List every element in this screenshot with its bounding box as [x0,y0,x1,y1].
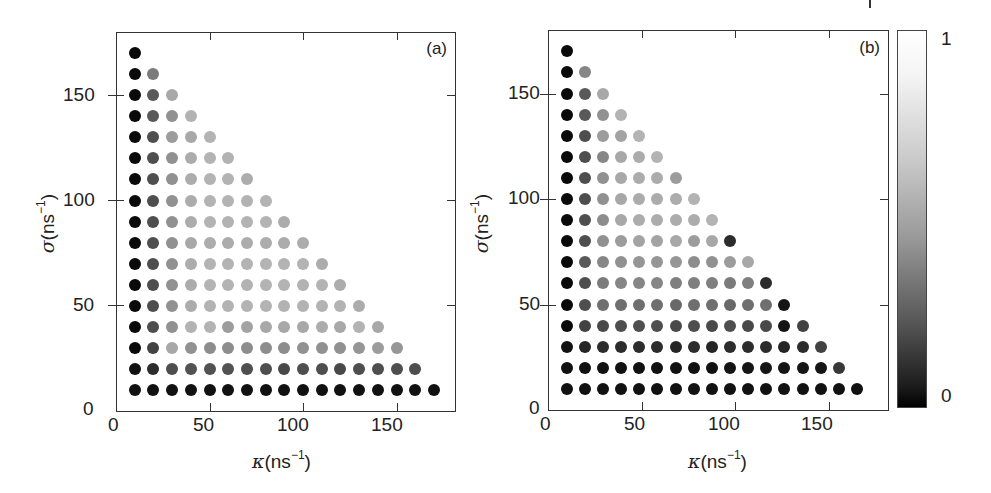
data-point [597,151,609,163]
data-point [760,320,772,332]
data-point [222,195,234,207]
data-point [597,320,609,332]
data-point [428,384,440,396]
data-point [724,341,736,353]
y-axis-title-b: σ(ns−1) [470,194,493,253]
y-axis-exponent: −1 [34,200,48,214]
data-point [615,362,627,374]
y-tick-label: 50 [519,293,540,315]
data-point [222,216,234,228]
data-point [129,342,141,354]
x-tick [303,403,304,411]
y-axis-symbol: σ [36,240,58,253]
data-point [724,362,736,374]
data-point [688,256,700,268]
data-point [561,66,573,78]
y-tick-label: 150 [63,84,95,106]
data-point [204,237,216,249]
data-point [278,258,290,270]
x-tick [642,402,643,410]
data-point [670,362,682,374]
data-point [166,384,178,396]
data-point [742,362,754,374]
data-point [597,341,609,353]
y-axis-unit: (ns [37,214,58,240]
data-point [353,384,365,396]
data-point [615,172,627,184]
data-point [372,321,384,333]
data-point [260,279,272,291]
data-point [742,383,754,395]
data-point [278,321,290,333]
data-point [797,320,809,332]
data-point [222,321,234,333]
x-tick [735,30,736,38]
data-point [561,45,573,57]
data-point [353,342,365,354]
data-point [316,363,328,375]
data-point [241,321,253,333]
data-point [372,363,384,375]
data-point [561,320,573,332]
panel-label-b: (b) [859,38,880,58]
data-point [353,363,365,375]
data-point [260,237,272,249]
x-axis-title-a: κ(ns−1) [252,450,311,473]
y-tick-label: 150 [508,82,540,104]
data-point [633,362,645,374]
data-point [670,256,682,268]
data-point [185,342,197,354]
x-tick [829,402,830,410]
x-tick [210,32,211,40]
colorbar [897,30,927,408]
data-point [615,193,627,205]
data-point [633,151,645,163]
data-point [706,235,718,247]
data-point [579,130,591,142]
data-point [688,214,700,226]
data-point [391,363,403,375]
data-point [742,341,754,353]
data-point [597,362,609,374]
data-point [129,68,141,80]
data-point [297,384,309,396]
data-point [297,363,309,375]
data-point [815,383,827,395]
data-point [222,237,234,249]
data-point [815,341,827,353]
data-point [278,237,290,249]
data-point [597,109,609,121]
data-point [297,258,309,270]
x-tick [303,32,304,40]
data-point [129,258,141,270]
data-point [204,279,216,291]
data-point [742,320,754,332]
y-tick [447,95,455,96]
data-point [129,89,141,101]
data-point [670,320,682,332]
data-point [760,299,772,311]
x-tick-label: 0 [540,413,551,435]
data-point [166,258,178,270]
data-point [579,362,591,374]
page-corner-mark [869,0,871,8]
data-point [166,279,178,291]
data-point [651,341,663,353]
data-point [316,300,328,312]
data-point [260,363,272,375]
data-point [260,384,272,396]
y-tick [447,305,455,306]
data-point [561,130,573,142]
data-point [851,383,863,395]
data-point [579,172,591,184]
data-point [615,383,627,395]
x-tick [829,30,830,38]
data-point [670,383,682,395]
data-point [670,172,682,184]
data-point [166,195,178,207]
data-point [597,172,609,184]
y-tick [880,94,888,95]
data-point [597,214,609,226]
data-point [241,216,253,228]
data-point [185,195,197,207]
